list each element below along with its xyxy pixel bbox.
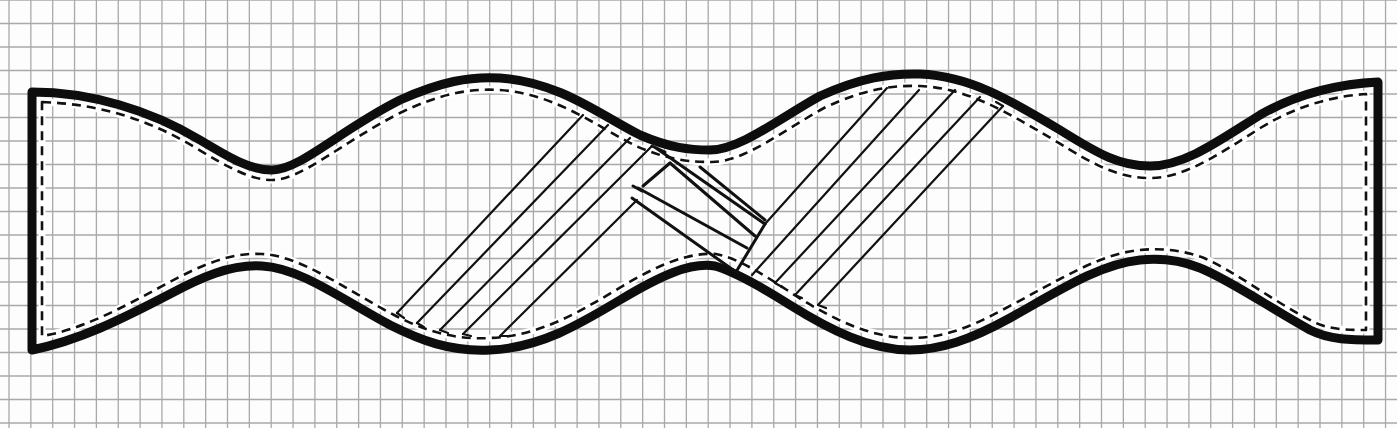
knot-line (670, 163, 755, 236)
right-hatching (752, 88, 1003, 308)
bow-tie-pattern-drawing (0, 0, 1397, 428)
hatch-line (818, 106, 1003, 305)
grid-lines (0, 0, 1397, 428)
graph-paper-canvas: Bow tie sewing pattern (0, 0, 1397, 428)
knot-line (643, 163, 670, 186)
